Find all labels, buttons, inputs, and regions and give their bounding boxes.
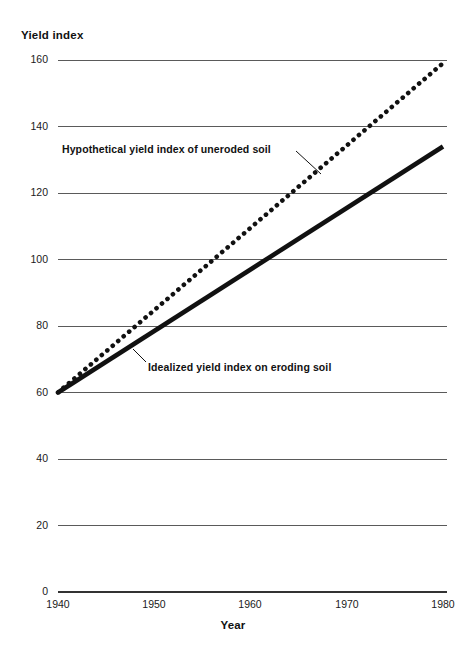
y-tick-label-20: 20	[14, 519, 48, 531]
y-tick-label-120: 120	[14, 186, 48, 198]
y-tick-label-100: 100	[14, 253, 48, 265]
series-line-hypothetical-uneroded	[58, 63, 443, 392]
leader-line-hypothetical	[296, 151, 321, 174]
annotation-idealized-eroding-soil: Idealized yield index on eroding soil	[148, 361, 331, 373]
chart-plot-area	[0, 0, 466, 654]
y-tick-label-40: 40	[14, 452, 48, 464]
y-tick-label-80: 80	[14, 319, 48, 331]
page-footer-artifact	[18, 641, 448, 648]
leader-line-idealized	[133, 349, 146, 362]
x-axis-title: Year	[0, 619, 466, 631]
chart-figure: Yield index 160 140 120 100 80 60 40 20 …	[0, 0, 466, 654]
series-line-idealized-eroding	[58, 147, 443, 393]
annotation-hypothetical-uneroded-soil: Hypothetical yield index of uneroded soi…	[62, 143, 271, 155]
x-tick-label-1970: 1970	[317, 598, 377, 610]
y-tick-label-160: 160	[14, 53, 48, 65]
x-tick-label-1950: 1950	[124, 598, 184, 610]
y-tick-label-60: 60	[14, 386, 48, 398]
x-tick-label-1980: 1980	[413, 598, 466, 610]
x-tick-label-1940: 1940	[28, 598, 88, 610]
y-tick-label-0: 0	[14, 585, 48, 597]
x-tick-label-1960: 1960	[220, 598, 280, 610]
gridlines	[58, 60, 447, 526]
y-tick-label-140: 140	[14, 120, 48, 132]
y-axis-title: Yield index	[21, 29, 84, 41]
